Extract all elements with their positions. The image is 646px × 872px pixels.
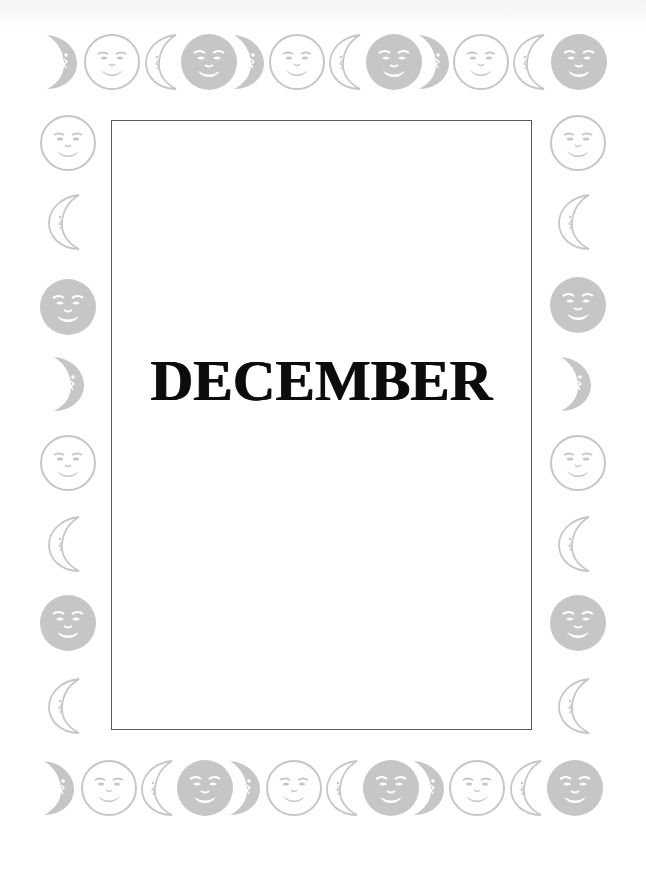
moon-face-outline-icon	[549, 114, 607, 172]
moon-face-filled-icon	[549, 594, 607, 652]
moon-face-outline-icon	[39, 114, 97, 172]
moon-crescent-filled-icon	[547, 355, 605, 413]
title-frame: DECEMBER	[111, 120, 532, 730]
moon-crescent-outline-icon	[545, 677, 603, 735]
moon-crescent-outline-icon	[545, 515, 603, 573]
moon-crescent-outline-icon	[35, 193, 93, 251]
page-scan-tint	[0, 0, 646, 30]
moon-face-outline-icon	[39, 434, 97, 492]
moon-face-filled-icon	[39, 278, 97, 336]
moon-crescent-outline-icon	[35, 515, 93, 573]
moon-crescent-outline-icon	[35, 677, 93, 735]
page-title: DECEMBER	[108, 350, 535, 412]
moon-face-filled-icon	[546, 759, 604, 817]
moon-crescent-filled-icon	[40, 355, 98, 413]
moon-face-filled-icon	[549, 276, 607, 334]
moon-face-filled-icon	[550, 33, 608, 91]
moon-crescent-outline-icon	[545, 193, 603, 251]
moon-face-outline-icon	[549, 434, 607, 492]
moon-face-filled-icon	[39, 594, 97, 652]
